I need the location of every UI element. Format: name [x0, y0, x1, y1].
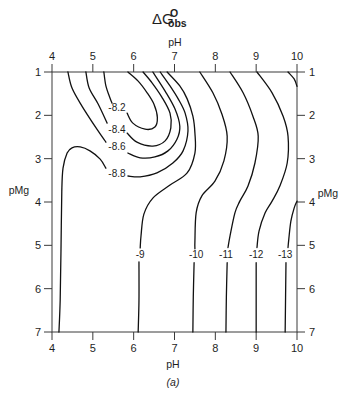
- contour-label: -13: [278, 249, 293, 260]
- contour-level: [86, 72, 171, 146]
- x-tick-label-top: 10: [291, 50, 303, 62]
- contour-line: [257, 72, 288, 248]
- y-tick-label-right: 3: [309, 153, 315, 165]
- y-tick-label-right: 2: [309, 109, 315, 121]
- axis-ticks: [44, 64, 305, 340]
- contour-level: [193, 72, 227, 332]
- y-tick-label-left: 5: [35, 239, 41, 251]
- chart-title: ΔG O obs: [152, 7, 187, 29]
- title-subscript: obs: [168, 17, 187, 29]
- contour-line: [59, 147, 106, 332]
- y-tick-label-right: 5: [309, 239, 315, 251]
- y-axis-title-left: pMg: [9, 184, 30, 196]
- contour-level: [104, 72, 158, 129]
- contour-line: [127, 72, 171, 146]
- contour-level: [226, 72, 258, 332]
- contour-line: [140, 72, 195, 248]
- contour-level: [285, 72, 297, 332]
- x-tick-label-bottom: 8: [212, 342, 218, 354]
- y-tick-label-left: 1: [35, 66, 41, 78]
- contour-line: [104, 72, 112, 103]
- contour-label: -8.2: [108, 102, 126, 113]
- y-tick-label-left: 4: [35, 196, 41, 208]
- contour-label: -12: [249, 249, 264, 260]
- y-tick-label-left: 6: [35, 283, 41, 295]
- contour-line: [127, 72, 157, 129]
- contour-lines: [59, 72, 297, 332]
- y-tick-label-right: 7: [309, 326, 315, 338]
- x-tick-label-bottom: 5: [90, 342, 96, 354]
- contour-line: [285, 263, 286, 332]
- plot-frame: [52, 72, 297, 332]
- x-tick-label-bottom: 10: [291, 342, 303, 354]
- contour-label: -10: [189, 249, 204, 260]
- y-tick-label-right: 6: [309, 283, 315, 295]
- x-tick-label-top: 6: [131, 50, 137, 62]
- y-tick-label-left: 7: [35, 326, 41, 338]
- x-tick-label-bottom: 4: [49, 342, 55, 354]
- contour-line: [226, 263, 227, 332]
- figure-caption: (a): [167, 376, 180, 388]
- x-tick-label-top: 8: [212, 50, 218, 62]
- x-axis-title-bottom: pH: [166, 358, 179, 370]
- y-tick-label-left: 3: [35, 153, 41, 165]
- contour-label: -9: [136, 249, 145, 260]
- x-tick-label-top: 7: [171, 50, 177, 62]
- contour-label: -8.6: [108, 141, 126, 152]
- contour-label: -11: [219, 249, 233, 260]
- contour-figure: ΔG O obs pH pH pMg pMg 44556677889910101…: [0, 0, 345, 394]
- y-tick-label-right: 1: [309, 66, 315, 78]
- contour-line: [193, 263, 194, 332]
- y-axis-title-right: pMg: [318, 187, 339, 199]
- x-tick-label-bottom: 7: [171, 342, 177, 354]
- x-axis-title-top: pH: [168, 36, 181, 48]
- contour-label: -8.8: [108, 168, 126, 179]
- contour-line: [228, 72, 258, 248]
- contour-line: [288, 201, 297, 247]
- contour-label: -8.4: [108, 124, 126, 135]
- contour-line: [138, 262, 139, 332]
- x-tick-label-top: 4: [49, 50, 55, 62]
- contour-level: [256, 72, 288, 332]
- x-tick-label-bottom: 6: [131, 342, 137, 354]
- x-tick-label-bottom: 9: [253, 342, 259, 354]
- contour-line: [288, 72, 297, 86]
- x-tick-label-top: 9: [253, 50, 259, 62]
- y-tick-label-right: 4: [309, 196, 315, 208]
- contour-line: [195, 72, 227, 249]
- y-tick-label-left: 2: [35, 109, 41, 121]
- contour-level: [138, 72, 195, 332]
- contour-line: [86, 72, 107, 123]
- x-tick-label-top: 5: [90, 50, 96, 62]
